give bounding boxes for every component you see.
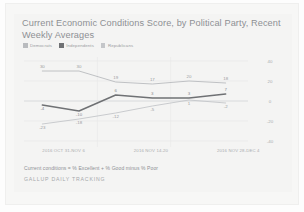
x-axis-tick-0: 2016 OCT 31-NOV 6	[20, 146, 107, 158]
data-label-independents-1: -10	[76, 112, 83, 117]
legend-item-independents[interactable]: Independents	[59, 43, 94, 48]
chart-source: GALLUP DAILY TRACKING	[24, 176, 105, 182]
series-line-democrats	[42, 71, 225, 84]
legend-swatch-independents	[59, 43, 64, 48]
line-chart-svg: 40200-20-40303019172018-4-106337-23-18-1…	[20, 55, 280, 147]
legend-label-independents: Independents	[66, 43, 94, 48]
y-axis-tick-20: 20	[268, 79, 273, 84]
data-label-independents-0: -4	[40, 106, 44, 111]
series-line-independents	[42, 94, 225, 111]
chart-footnote: Current conditions = % Excellent + % Goo…	[24, 165, 158, 171]
y-axis-tick-40: 40	[268, 59, 273, 64]
data-label-republicans-5: -2	[224, 104, 228, 109]
data-label-independents-5: 7	[224, 87, 227, 92]
data-label-democrats-4: 20	[187, 74, 192, 79]
y-axis-tick-0: 0	[269, 99, 272, 104]
series-line-republicans	[42, 100, 225, 124]
x-axis-tick-1: 2016 NOV 14-20	[107, 146, 194, 158]
chart-title: Current Economic Conditions Score, by Po…	[22, 18, 284, 41]
data-label-republicans-0: -23	[39, 125, 46, 130]
chart-legend: Democrats Independents Republicans	[23, 43, 133, 48]
data-label-independents-3: 3	[151, 91, 154, 96]
data-label-democrats-3: 17	[150, 77, 155, 82]
data-label-independents-4: 3	[188, 91, 191, 96]
data-label-democrats-0: 30	[40, 64, 45, 69]
legend-swatch-republicans	[101, 43, 106, 48]
legend-label-republicans: Republicans	[108, 43, 133, 48]
legend-item-democrats[interactable]: Democrats	[23, 43, 52, 48]
data-label-democrats-5: 18	[223, 76, 228, 81]
chart-plot-area: 40200-20-40303019172018-4-106337-23-18-1…	[20, 55, 280, 147]
data-label-republicans-2: -12	[112, 114, 119, 119]
y-axis-tick--20: -20	[267, 119, 274, 124]
data-label-democrats-1: 30	[77, 64, 82, 69]
data-label-democrats-2: 19	[113, 75, 118, 80]
data-label-republicans-1: -18	[76, 120, 83, 125]
legend-item-republicans[interactable]: Republicans	[101, 43, 133, 48]
x-axis-labels: 2016 OCT 31-NOV 6 2016 NOV 14-20 2016 NO…	[20, 146, 282, 158]
data-label-republicans-4: 1	[188, 101, 191, 106]
data-label-independents-2: 6	[114, 88, 117, 93]
legend-swatch-democrats	[23, 43, 28, 48]
x-axis-tick-2: 2016 NOV 28-DEC 4	[195, 146, 282, 158]
y-axis-tick--40: -40	[267, 139, 274, 144]
legend-label-democrats: Democrats	[30, 43, 52, 48]
screenshot-page: Current Economic Conditions Score, by Po…	[0, 0, 304, 212]
data-label-republicans-3: -5	[150, 107, 154, 112]
